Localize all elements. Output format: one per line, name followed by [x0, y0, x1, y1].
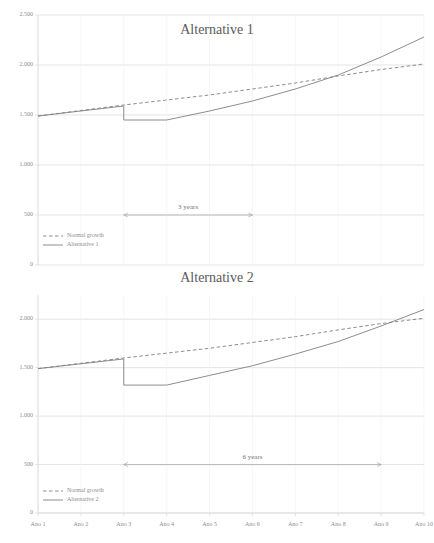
chart-1-legend: Normal growthAlternative 1 [42, 231, 104, 249]
x-tick-label: Ano 4 [147, 521, 187, 527]
y-tick-label: 0 [0, 509, 33, 515]
x-tick-label: Ano 2 [61, 521, 101, 527]
y-tick-label: 1.000 [0, 412, 33, 418]
chart-1-annotation-arrow [124, 213, 253, 217]
series-line-alternative-2 [38, 310, 424, 386]
y-tick-label: 1.000 [0, 161, 33, 167]
y-tick-label: 1.500 [0, 111, 33, 117]
y-tick-label: 2.000 [0, 315, 33, 321]
legend-item[interactable]: Normal growth [42, 486, 104, 495]
chart-1-gridlines [35, 15, 424, 265]
legend-swatch-dashed-line-icon [42, 488, 64, 494]
legend-label: Alternative 2 [67, 495, 99, 504]
legend-label: Normal growth [67, 231, 104, 240]
x-tick-label: Ano 3 [104, 521, 144, 527]
chart-2-legend: Normal growthAlternative 2 [42, 486, 104, 504]
x-tick-label: Ano 5 [190, 521, 230, 527]
y-tick-label: 1.500 [0, 364, 33, 370]
legend-swatch-solid-line-icon [42, 497, 64, 503]
chart-2-x-tick-marks [38, 513, 424, 516]
chart-1-canvas [0, 0, 434, 268]
legend-item[interactable]: Normal growth [42, 231, 104, 240]
chart-2-series-lines [38, 310, 424, 386]
chart-alternative-1: Alternative 1 05001.0001.5002.0002.500 N… [0, 0, 434, 268]
chart-2-title: Alternative 2 [0, 270, 434, 286]
chart-page: ` ` ` ` ` Alternative 1 05001.0001.5002.… [0, 0, 434, 543]
y-tick-label: 2.500 [0, 11, 33, 17]
x-tick-label: Ano 6 [232, 521, 272, 527]
series-line-normal-growth [38, 318, 424, 368]
chart-1-series-lines [38, 37, 424, 120]
chart-1-annotation-label: 3 years [148, 203, 228, 211]
legend-item[interactable]: Alternative 1 [42, 240, 104, 249]
legend-item[interactable]: Alternative 2 [42, 495, 104, 504]
x-tick-label: Ano 1 [18, 521, 58, 527]
y-tick-label: 500 [0, 211, 33, 217]
chart-1-title: Alternative 1 [0, 22, 434, 38]
legend-swatch-dashed-line-icon [42, 233, 64, 239]
y-tick-label: 2.000 [0, 61, 33, 67]
y-tick-label: 500 [0, 461, 33, 467]
legend-label: Alternative 1 [67, 240, 99, 249]
legend-swatch-solid-line-icon [42, 242, 64, 248]
chart-2-gridlines [35, 295, 424, 513]
x-tick-label: Ano 10 [404, 521, 434, 527]
chart-alternative-2: Alternative 2 05001.0001.5002.000 Normal… [0, 268, 434, 543]
x-tick-label: Ano 7 [275, 521, 315, 527]
series-line-normal-growth [38, 64, 424, 116]
legend-label: Normal growth [67, 486, 104, 495]
series-line-alternative-1 [38, 37, 424, 120]
chart-2-annotation-label: 6 years [212, 453, 292, 461]
x-tick-label: Ano 9 [361, 521, 401, 527]
y-tick-label: 0 [0, 261, 33, 267]
x-tick-label: Ano 8 [318, 521, 358, 527]
